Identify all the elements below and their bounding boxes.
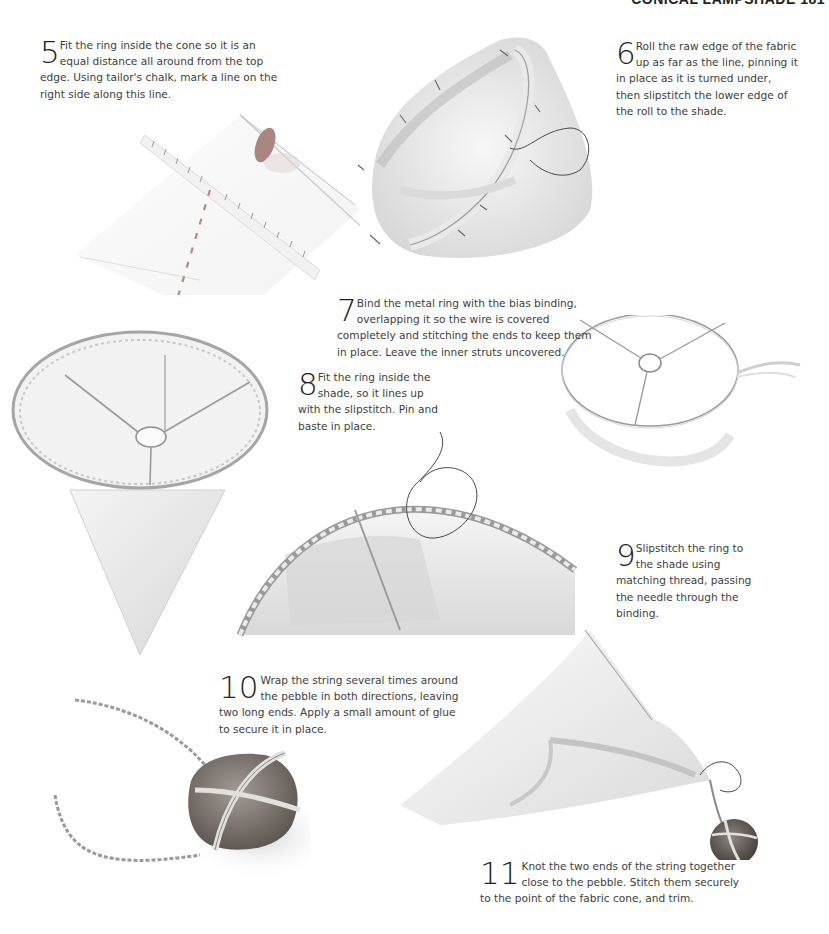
- step-text: Bind the metal ring with the bias bindin…: [337, 295, 599, 360]
- step-number: 10: [219, 673, 258, 701]
- running-head: CONICAL LAMPSHADE 181: [610, 0, 825, 7]
- step-11: 11 Knot the two ends of the string toget…: [480, 858, 748, 907]
- illustration-slipstitching: [230, 420, 590, 655]
- book-page: CONICAL LAMPSHADE 181: [0, 0, 829, 934]
- step-text: Fit the ring inside the cone so it is an…: [40, 37, 280, 102]
- step-number: 8: [298, 370, 316, 398]
- step-text: Knot the two ends of the string together…: [480, 858, 748, 907]
- step-number: 6: [616, 39, 634, 67]
- step-9: 9 Slipstitch the ring to the shade using…: [616, 540, 756, 621]
- step-number: 5: [40, 38, 58, 66]
- step-number: 11: [480, 859, 519, 887]
- illustration-marking-fabric: [60, 85, 360, 295]
- step-text: Roll the raw edge of the fabric up as fa…: [616, 38, 798, 119]
- step-text: Fit the ring inside the shade, so it lin…: [298, 369, 438, 434]
- illustration-pebble-on-cone: [390, 630, 820, 860]
- step-6: 6 Roll the raw edge of the fabric up as …: [616, 38, 798, 119]
- step-number: 9: [616, 541, 634, 569]
- step-8: 8 Fit the ring inside the shade, so it l…: [298, 369, 438, 434]
- step-text: Slipstitch the ring to the shade using m…: [616, 540, 756, 621]
- step-number: 7: [337, 296, 355, 324]
- illustration-rolled-edge: [340, 20, 610, 265]
- step-10: 10 Wrap the string several times around …: [219, 672, 469, 737]
- step-7: 7 Bind the metal ring with the bias bind…: [337, 295, 599, 360]
- step-5: 5 Fit the ring inside the cone so it is …: [40, 37, 280, 102]
